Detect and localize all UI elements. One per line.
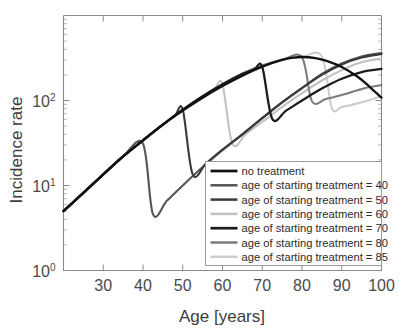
legend-label: age of starting treatment = 80 xyxy=(242,237,388,249)
x-axis-label: Age [years] xyxy=(179,307,265,326)
x-tick-label: 50 xyxy=(174,277,192,294)
chart-legend[interactable]: no treatmentage of starting treatment = … xyxy=(206,162,388,266)
y-axis-label: Incidence rate xyxy=(7,97,26,204)
x-tick-label: 80 xyxy=(293,277,311,294)
x-tick-label: 60 xyxy=(214,277,232,294)
legend-label: age of starting treatment = 70 xyxy=(242,222,388,234)
x-tick-label: 100 xyxy=(368,277,395,294)
legend-label: age of starting treatment = 50 xyxy=(242,194,388,206)
legend-label: age of starting treatment = 60 xyxy=(242,208,388,220)
legend-label: no treatment xyxy=(242,165,306,177)
x-tick-label: 70 xyxy=(253,277,271,294)
chart-figure: 100101102 30405060708090100 Incidence ra… xyxy=(0,0,408,329)
x-tick-label: 90 xyxy=(333,277,351,294)
incidence-rate-log-plot: 100101102 30405060708090100 Incidence ra… xyxy=(0,0,408,329)
x-tick-label: 40 xyxy=(134,277,152,294)
legend-label: age of starting treatment = 40 xyxy=(242,179,388,191)
x-tick-label: 30 xyxy=(94,277,112,294)
legend-label: age of starting treatment = 85 xyxy=(242,251,388,263)
